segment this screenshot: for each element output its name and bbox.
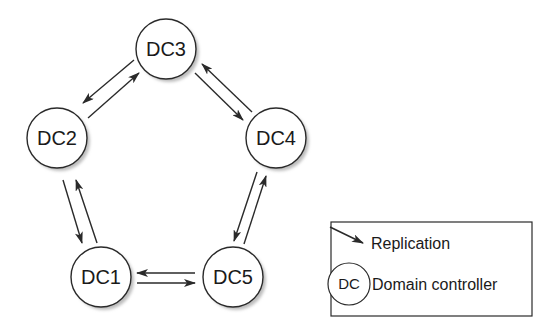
legend-replication-label: Replication xyxy=(371,235,450,252)
replication-arrow xyxy=(83,60,134,103)
node-label: DC1 xyxy=(81,266,121,288)
node-dc2: DC2 xyxy=(27,108,90,171)
edge-dc1-dc5 xyxy=(137,273,195,283)
node-label: DC4 xyxy=(256,127,296,149)
node-dc4: DC4 xyxy=(246,108,309,171)
edge-dc3-dc4 xyxy=(195,64,252,120)
legend-dc-symbol: DC xyxy=(338,275,360,292)
node-label: DC2 xyxy=(37,127,77,149)
replication-arrow xyxy=(88,73,139,118)
node-label: DC5 xyxy=(213,266,253,288)
edge-dc3-dc2 xyxy=(83,60,139,118)
legend-dc-label: Domain controller xyxy=(372,276,498,293)
node-label: DC3 xyxy=(146,38,186,60)
node-dc5: DC5 xyxy=(203,247,266,310)
legend: Replication DC Domain controller xyxy=(328,222,532,316)
edge-dc2-dc1 xyxy=(63,180,97,243)
node-dc1: DC1 xyxy=(71,247,134,310)
edge-dc4-dc5 xyxy=(234,172,266,244)
node-dc3: DC3 xyxy=(136,19,199,82)
replication-ring-diagram: DC3 DC2 DC4 DC1 DC5 Replication DC Domai… xyxy=(0,0,555,334)
replication-arrow xyxy=(244,176,266,244)
replication-arrow xyxy=(234,172,257,241)
